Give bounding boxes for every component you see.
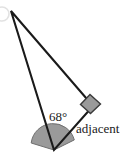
right-angle-marker-icon	[81, 95, 101, 114]
adjacent-side-label: adjacent	[76, 122, 119, 135]
geometry-diagram-canvas: 68° adjacent	[0, 0, 128, 159]
angle-measure-label: 68°	[49, 110, 67, 123]
cropped-circle-artifact	[0, 7, 9, 21]
